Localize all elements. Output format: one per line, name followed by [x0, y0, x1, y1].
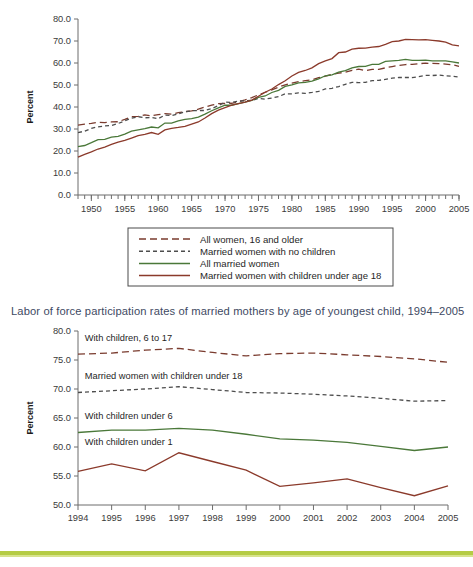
chart2-x-tick-label: 2002: [337, 513, 358, 523]
chart2-y-tick-label: 80.0: [53, 326, 71, 336]
chart1-y-tick-label: 0.0: [58, 190, 71, 200]
chart2-y-tick-label: 70.0: [53, 384, 71, 394]
chart2-series-label-3: With children under 1: [85, 437, 173, 447]
chart2-x-tick-label: 1997: [169, 513, 190, 523]
chart1-x-tick-label: 1975: [248, 204, 269, 214]
chart2-series-3: [78, 453, 448, 496]
chart2-y-tick-label: 60.0: [53, 442, 71, 452]
accent-bar-light: [0, 555, 473, 557]
chart2-x-tick-label: 2000: [269, 513, 290, 523]
chart2-series-label-2: With children under 6: [85, 411, 173, 421]
chart2-y-tick-label: 65.0: [53, 413, 71, 423]
chart2-x-tick-label: 2001: [303, 513, 324, 523]
chart-married-mothers-by-age-of-youngest-child: 50.055.060.065.070.075.080.0199419951996…: [0, 300, 473, 540]
chart1-x-tick-label: 1985: [315, 204, 336, 214]
page-root: 0.010.020.030.040.050.060.070.080.019501…: [0, 0, 473, 567]
chart2-series-label-0: With children, 6 to 17: [85, 333, 172, 343]
chart2-y-tick-label: 75.0: [53, 355, 71, 365]
chart1-series-1: [78, 75, 459, 132]
chart1-legend-label-1: Married women with no children: [200, 246, 335, 257]
chart1-legend-label-2: All married women: [200, 258, 279, 269]
chart1-legend-label-0: All women, 16 and older: [200, 234, 304, 245]
chart-labor-force-participation-historical: 0.010.020.030.040.050.060.070.080.019501…: [0, 0, 473, 300]
chart1-x-tick-label: 1950: [81, 204, 102, 214]
chart2-y-axis-title: Percent: [25, 401, 35, 434]
chart2-x-tick-label: 1998: [202, 513, 223, 523]
chart2-x-tick-label: 2005: [438, 513, 459, 523]
chart1-legend-label-3: Married women with children under age 18: [200, 270, 381, 281]
chart2-series-0: [78, 348, 448, 362]
chart1-x-tick-label: 1960: [148, 204, 169, 214]
chart1-y-tick-label: 40.0: [53, 102, 71, 112]
chart2-x-tick-label: 2003: [370, 513, 391, 523]
chart2-y-tick-label: 50.0: [53, 500, 71, 510]
chart1-x-tick-label: 2005: [449, 204, 470, 214]
chart1-x-tick-label: 2000: [415, 204, 436, 214]
chart1-y-axis-title: Percent: [25, 90, 35, 123]
chart1-x-tick-label: 1995: [382, 204, 403, 214]
chart1-y-tick-label: 80.0: [53, 14, 71, 24]
chart2-series-1: [78, 387, 448, 402]
chart2-x-tick-label: 1996: [135, 513, 156, 523]
chart1-y-tick-label: 10.0: [53, 168, 71, 178]
chart1-y-tick-label: 30.0: [53, 124, 71, 134]
chart1-x-tick-label: 1990: [348, 204, 369, 214]
chart2-y-tick-label: 55.0: [53, 471, 71, 481]
chart1-y-tick-label: 20.0: [53, 146, 71, 156]
chart1-x-tick-label: 1980: [282, 204, 303, 214]
chart1-y-tick-label: 50.0: [53, 80, 71, 90]
chart2-series-label-1: Married women with children under 18: [85, 371, 243, 381]
chart1-x-tick-label: 1955: [114, 204, 135, 214]
chart2-x-tick-label: 2004: [404, 513, 425, 523]
chart1-x-tick-label: 1970: [215, 204, 236, 214]
chart1-x-tick-label: 1965: [181, 204, 202, 214]
chart2-x-tick-label: 1994: [68, 513, 89, 523]
chart2-x-tick-label: 1995: [101, 513, 122, 523]
chart1-y-tick-label: 70.0: [53, 36, 71, 46]
chart1-y-tick-label: 60.0: [53, 58, 71, 68]
chart2-x-tick-label: 1999: [236, 513, 257, 523]
chart1-series-2: [78, 59, 459, 146]
